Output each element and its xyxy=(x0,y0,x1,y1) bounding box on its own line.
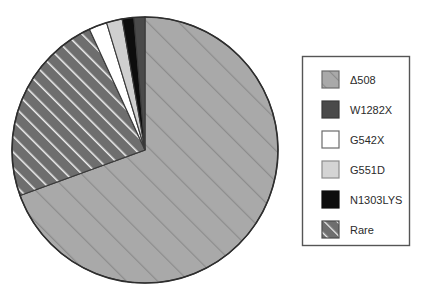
legend-swatch xyxy=(322,221,339,238)
legend-swatch xyxy=(322,191,339,208)
legend-item[interactable]: G551D xyxy=(322,161,385,178)
legend-swatch xyxy=(322,101,339,118)
legend-label: Δ508 xyxy=(350,74,376,86)
legend-swatch xyxy=(322,71,339,88)
legend-label: Rare xyxy=(350,224,374,236)
pie-chart-figure: Δ508W1282XG542XG551DN1303LYSRare xyxy=(0,0,421,294)
figure-canvas: Δ508W1282XG542XG551DN1303LYSRare xyxy=(0,0,421,294)
legend-label: N1303LYS xyxy=(350,194,402,206)
pie-slices xyxy=(12,17,278,283)
legend-item[interactable]: W1282X xyxy=(322,101,393,118)
legend-swatch xyxy=(322,161,339,178)
legend-label: W1282X xyxy=(350,104,393,116)
legend-item[interactable]: G542X xyxy=(322,131,385,148)
legend-swatch xyxy=(322,131,339,148)
legend: Δ508W1282XG542XG551DN1303LYSRare xyxy=(303,57,410,246)
legend-label: G542X xyxy=(350,134,385,146)
legend-item[interactable]: N1303LYS xyxy=(322,191,402,208)
legend-label: G551D xyxy=(350,164,385,176)
